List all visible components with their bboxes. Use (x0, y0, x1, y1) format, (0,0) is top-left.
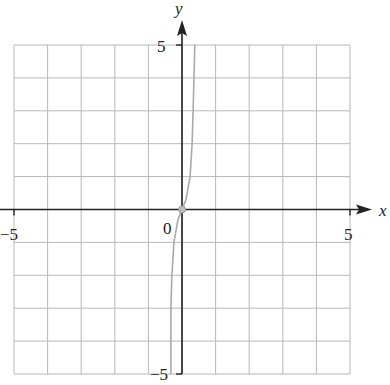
y-max-tick-label: 5 (157, 38, 166, 55)
graph-canvas (0, 0, 390, 385)
y-axis-label: y (175, 0, 183, 17)
origin-point (179, 206, 186, 213)
x-min-tick-label: −5 (0, 226, 18, 243)
x-axis-label: x (379, 202, 387, 219)
x-max-tick-label: 5 (344, 226, 353, 243)
y-min-tick-label: −5 (150, 366, 168, 383)
origin-label: 0 (163, 220, 172, 237)
